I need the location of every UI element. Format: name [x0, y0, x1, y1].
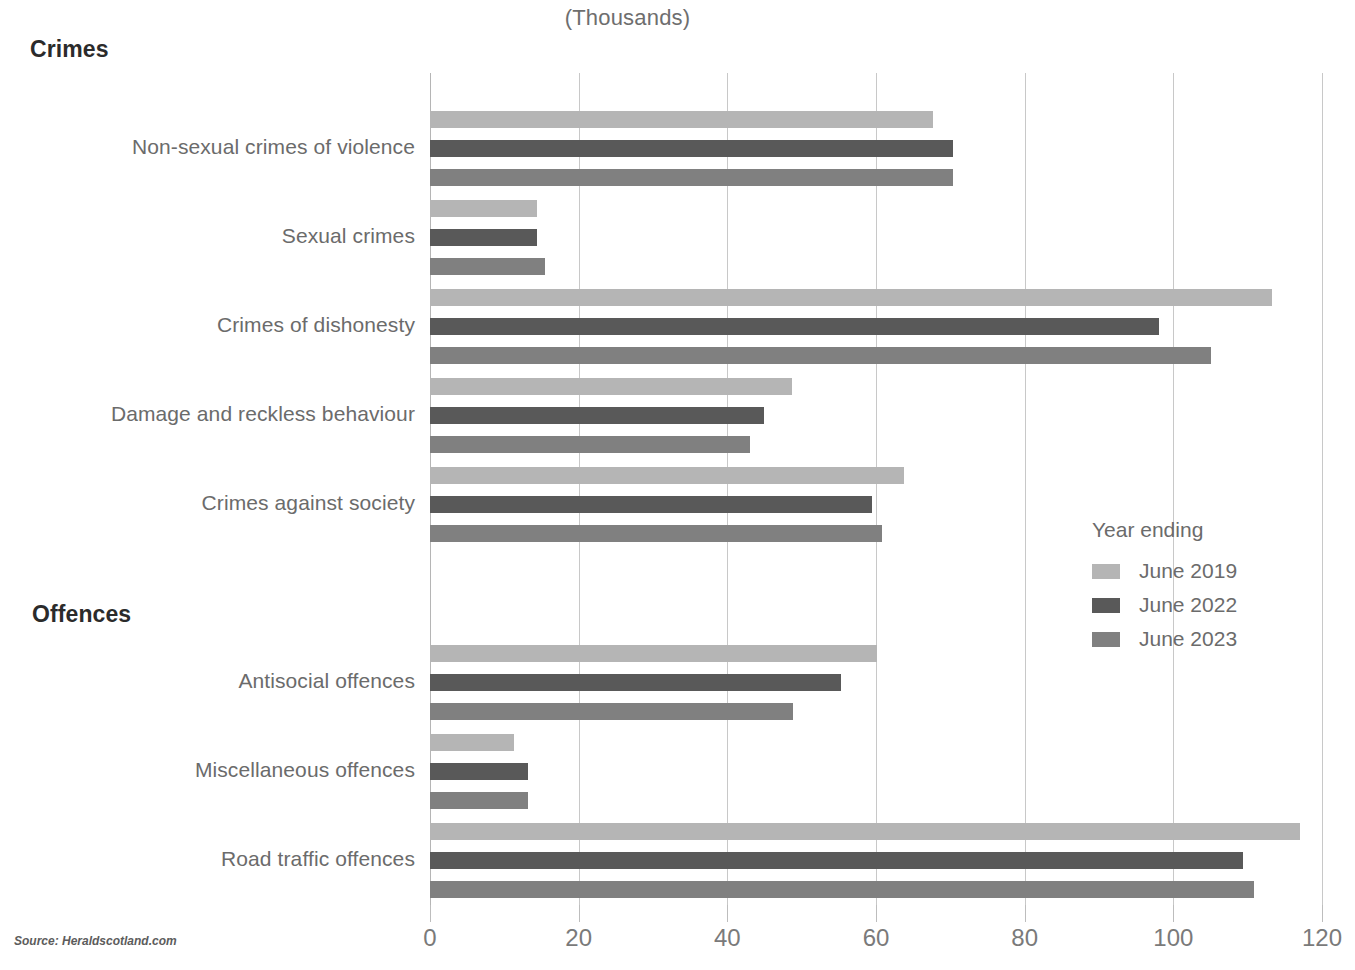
legend-entry-june-2023[interactable]: June 2023: [1092, 622, 1237, 656]
legend-label-3: June 2023: [1139, 627, 1237, 651]
legend-entry-june-2022[interactable]: June 2022: [1092, 588, 1237, 622]
bar-3-sexual-crimes[interactable]: [430, 258, 545, 275]
bar-3-miscellaneous-offences[interactable]: [430, 792, 528, 809]
bar-3-road-traffic-offences[interactable]: [430, 881, 1254, 898]
bar-1-road-traffic-offences[interactable]: [430, 823, 1300, 840]
plot-area: [430, 73, 1322, 905]
gridline-0: [430, 73, 431, 905]
category-label-miscellaneous-offences: Miscellaneous offences: [0, 758, 415, 782]
gridline-80: [1025, 73, 1026, 905]
legend-title: Year ending: [1092, 518, 1237, 542]
x-tick-mark-80: [1025, 905, 1026, 922]
legend-entry-june-2019[interactable]: June 2019: [1092, 554, 1237, 588]
category-label-non-sexual-crimes-of-violence: Non-sexual crimes of violence: [0, 135, 415, 159]
bar-2-crimes-of-dishonesty[interactable]: [430, 318, 1159, 335]
gridline-60: [876, 73, 877, 905]
gridline-20: [579, 73, 580, 905]
x-tick-mark-120: [1322, 905, 1323, 922]
chart-unit-title-text: (Thousands): [565, 5, 691, 30]
chart-root: (Thousands) Crimes Offences Non-sexual c…: [0, 0, 1355, 970]
bar-2-miscellaneous-offences[interactable]: [430, 763, 528, 780]
bar-2-crimes-against-society[interactable]: [430, 496, 872, 513]
x-tick-label-120: 120: [1302, 924, 1342, 952]
category-label-crimes-of-dishonesty: Crimes of dishonesty: [0, 313, 415, 337]
bar-1-non-sexual-crimes-of-violence[interactable]: [430, 111, 933, 128]
source-note: Source: Heraldscotland.com: [14, 934, 177, 948]
x-tick-mark-0: [430, 905, 431, 922]
legend: Year ending June 2019June 2022June 2023: [1092, 518, 1237, 656]
section-heading-crimes: Crimes: [30, 36, 109, 63]
bar-1-crimes-of-dishonesty[interactable]: [430, 289, 1272, 306]
x-tick-mark-20: [579, 905, 580, 922]
bar-1-damage-and-reckless-behaviour[interactable]: [430, 378, 792, 395]
bar-3-crimes-of-dishonesty[interactable]: [430, 347, 1211, 364]
category-label-antisocial-offences: Antisocial offences: [0, 669, 415, 693]
bar-3-damage-and-reckless-behaviour[interactable]: [430, 436, 750, 453]
bar-2-damage-and-reckless-behaviour[interactable]: [430, 407, 764, 424]
bar-3-antisocial-offences[interactable]: [430, 703, 793, 720]
gridline-100: [1173, 73, 1174, 905]
x-tick-mark-40: [727, 905, 728, 922]
legend-swatch-icon-2: [1092, 598, 1120, 613]
legend-swatch-icon-3: [1092, 632, 1120, 647]
bar-2-non-sexual-crimes-of-violence[interactable]: [430, 140, 953, 157]
chart-unit-title: (Thousands): [0, 5, 1355, 31]
x-tick-label-0: 0: [423, 924, 436, 952]
bar-1-antisocial-offences[interactable]: [430, 645, 877, 662]
bar-1-miscellaneous-offences[interactable]: [430, 734, 514, 751]
x-axis: 020406080100120: [430, 905, 1322, 965]
bar-2-antisocial-offences[interactable]: [430, 674, 841, 691]
bar-1-crimes-against-society[interactable]: [430, 467, 904, 484]
x-tick-label-100: 100: [1153, 924, 1193, 952]
bar-2-road-traffic-offences[interactable]: [430, 852, 1243, 869]
bar-2-sexual-crimes[interactable]: [430, 229, 537, 246]
category-label-damage-and-reckless-behaviour: Damage and reckless behaviour: [0, 402, 415, 426]
bar-1-sexual-crimes[interactable]: [430, 200, 537, 217]
x-tick-mark-100: [1173, 905, 1174, 922]
gridline-120: [1322, 73, 1323, 905]
bar-3-non-sexual-crimes-of-violence[interactable]: [430, 169, 953, 186]
category-label-crimes-against-society: Crimes against society: [0, 491, 415, 515]
x-tick-label-60: 60: [863, 924, 890, 952]
x-tick-mark-60: [876, 905, 877, 922]
category-label-road-traffic-offences: Road traffic offences: [0, 847, 415, 871]
x-tick-label-80: 80: [1011, 924, 1038, 952]
gridline-40: [727, 73, 728, 905]
legend-entries: June 2019June 2022June 2023: [1092, 554, 1237, 656]
bar-3-crimes-against-society[interactable]: [430, 525, 882, 542]
legend-swatch-icon-1: [1092, 564, 1120, 579]
x-tick-label-20: 20: [565, 924, 592, 952]
x-tick-label-40: 40: [714, 924, 741, 952]
category-label-sexual-crimes: Sexual crimes: [0, 224, 415, 248]
legend-label-1: June 2019: [1139, 559, 1237, 583]
legend-label-2: June 2022: [1139, 593, 1237, 617]
section-heading-offences: Offences: [32, 601, 131, 628]
